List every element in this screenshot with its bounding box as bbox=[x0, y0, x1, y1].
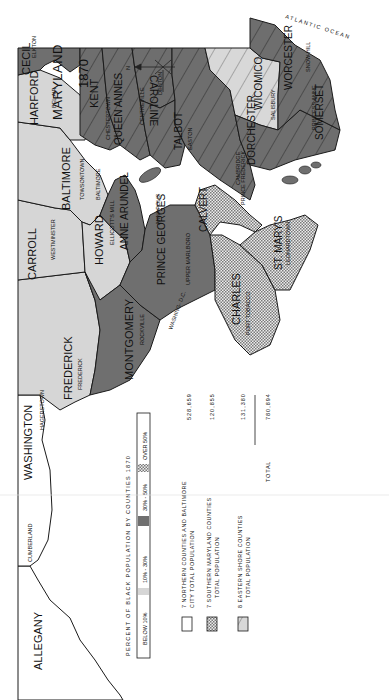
swatch-southern bbox=[207, 617, 217, 631]
compass-north-label: N bbox=[125, 66, 131, 70]
seat-leonardtown: LEONARDTOWN bbox=[285, 222, 291, 265]
swatch-eastern bbox=[238, 617, 248, 631]
total-value: 780,894 bbox=[265, 393, 271, 420]
label-harford: HARFORD bbox=[28, 71, 40, 125]
scale-30-50: 30% - 50% bbox=[142, 484, 148, 511]
label-charles: CHARLES bbox=[230, 273, 242, 325]
label-allegany: ALLEGANY bbox=[32, 611, 44, 670]
region-eastern-line1: 8 EASTERN SHORE COUNTIES bbox=[237, 515, 243, 608]
region-northern-value: 528,659 bbox=[186, 393, 192, 420]
map-year: 1870 bbox=[76, 59, 91, 88]
label-talbot: TALBOT bbox=[173, 112, 184, 150]
seat-salisbury: SALISBURY bbox=[270, 89, 276, 120]
legend-scale: BELOW 10% 10% - 30% 30% - 50% OVER 50% bbox=[137, 413, 150, 658]
seat-elkton: ELKTON bbox=[31, 36, 37, 58]
label-frederick: FREDERICK bbox=[62, 336, 74, 400]
seat-rockville: ROCKVILLE bbox=[139, 314, 145, 345]
maryland-1870-map: ALLEGANY WASHINGTON FREDERICK CARROLL BA… bbox=[0, 0, 389, 700]
seat-centreville: CENTREVILLE bbox=[139, 87, 145, 125]
region-eastern-value: 131,380 bbox=[240, 393, 246, 420]
seat-princess-anne: PRINCESS ANNE bbox=[311, 85, 317, 130]
label-st-marys: ST. MARY'S bbox=[273, 215, 284, 270]
legend-title: PERCENT OF BLACK POPULATION BY COUNTIES … bbox=[125, 455, 131, 656]
seat-westminster: WESTMINSTER bbox=[50, 219, 56, 260]
seat-hagerstown: HAGERSTOWN bbox=[39, 390, 45, 430]
swatch-northern bbox=[182, 617, 192, 631]
swatch-10-30 bbox=[138, 588, 149, 595]
ocean-label: ATLANTIC OCEAN bbox=[285, 13, 352, 40]
region-eastern-line2: TOTAL POPULATION bbox=[245, 537, 251, 598]
label-calvert: CALVERT bbox=[198, 187, 209, 232]
seat-annapolis: ANNAPOLIS bbox=[155, 193, 161, 225]
label-washington: WASHINGTON bbox=[22, 405, 34, 480]
seat-ellicotts-mill: ELLICOTT'S MILL bbox=[109, 200, 115, 245]
seat-port-tobacco: PORT TOBACCO bbox=[245, 291, 251, 335]
seat-snow-hill: SNOW HILL bbox=[305, 42, 311, 72]
legend: PERCENT OF BLACK POPULATION BY COUNTIES … bbox=[125, 393, 271, 658]
label-howard: HOWARD bbox=[93, 215, 105, 265]
seat-frederick: FREDERICK bbox=[77, 358, 83, 390]
seat-cambridge: CAMBRIDGE bbox=[235, 151, 241, 185]
label-worcester: WORCESTER bbox=[283, 25, 294, 90]
region-southern-line2: TOTAL POPULATION bbox=[214, 537, 220, 598]
seat-cumberland: CUMBERLAND bbox=[27, 523, 33, 562]
label-carroll: CARROLL bbox=[26, 228, 38, 280]
label-anne-arundel: ANNE ARUNDEL bbox=[119, 172, 130, 250]
label-montgomery: MONTGOMERY bbox=[123, 298, 135, 380]
map-title: MARYLAND bbox=[50, 44, 65, 120]
swatch-below-10 bbox=[138, 650, 149, 657]
region-northern-line1: 7 NORTHERN COUNTIES AND BALTIMORE bbox=[181, 481, 187, 608]
scale-10-30: 10% - 30% bbox=[142, 556, 148, 583]
label-wicomico: WICOMICO bbox=[253, 56, 264, 110]
seat-chestertown: CHESTERTOWN bbox=[105, 97, 111, 140]
scale-below-10: BELOW 10% bbox=[142, 612, 148, 645]
scale-over-50: OVER 50% bbox=[142, 432, 148, 460]
label-baltimore: BALTIMORE bbox=[60, 147, 72, 210]
region-southern-line1: 7 SOUTHERN MARYLAND COUNTIES bbox=[206, 497, 212, 608]
seat-upper-marlboro: UPPER MARLBORO bbox=[185, 232, 191, 285]
seat-towsontown: TOWSONTOWN bbox=[79, 159, 85, 200]
county-frederick bbox=[18, 272, 100, 410]
swatch-over-50 bbox=[138, 464, 149, 472]
region-northern-line2: CITY TOTAL POPULATION bbox=[189, 530, 195, 608]
region-southern-value: 120,855 bbox=[209, 393, 215, 420]
city-baltimore: BALTIMORE bbox=[95, 168, 101, 200]
seat-denton: DENTON bbox=[157, 72, 163, 95]
total-label: TOTAL bbox=[265, 461, 271, 482]
swatch-30-50 bbox=[138, 516, 149, 526]
seat-easton: EASTON bbox=[187, 127, 193, 150]
label-queen-annes: QUEEN ANNES bbox=[113, 72, 124, 145]
